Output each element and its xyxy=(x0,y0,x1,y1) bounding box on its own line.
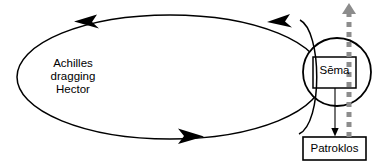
ascent-dashed-arrowhead-icon xyxy=(342,3,356,14)
ellipse-arrow-top-right-icon xyxy=(267,14,292,28)
patroklos-label: Patroklos xyxy=(303,142,366,155)
ellipse-arrow-bottom-icon xyxy=(178,129,204,145)
circuit-label: Achilles dragging Hector xyxy=(30,57,116,96)
ellipse-arrow-top-left-icon xyxy=(74,15,99,29)
sema-to-patroklos-arrowhead-icon xyxy=(331,128,338,137)
sema-label: Sēma xyxy=(313,64,356,77)
diagram-canvas: Achilles dragging Hector Sēma Patroklos xyxy=(0,0,382,168)
